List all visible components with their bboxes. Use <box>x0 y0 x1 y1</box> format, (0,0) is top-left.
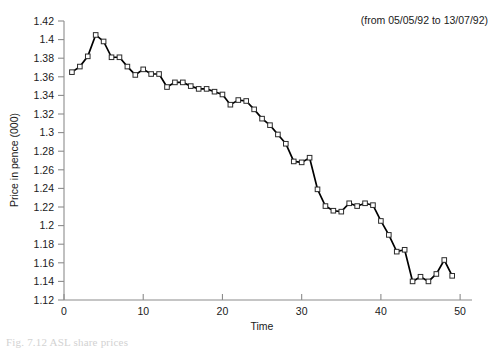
data-point-marker <box>244 99 249 104</box>
data-point-marker <box>220 92 225 97</box>
figure-caption: Fig. 7.12 ASL share prices <box>6 336 128 348</box>
data-point-marker <box>117 55 122 60</box>
y-tick-label: 1.34 <box>34 89 55 101</box>
x-tick-label: 30 <box>296 305 308 317</box>
data-point-marker <box>181 80 186 85</box>
data-point-marker <box>70 70 75 75</box>
x-axis-title: Time <box>251 320 274 332</box>
data-point-marker <box>157 72 162 77</box>
data-point-marker <box>125 64 130 69</box>
data-point-marker <box>212 89 217 94</box>
y-tick-label: 1.26 <box>34 164 55 176</box>
data-point-marker <box>323 204 328 209</box>
data-point-marker <box>355 204 360 209</box>
price-series-line <box>72 35 452 281</box>
y-tick-label: 1.2 <box>39 219 54 231</box>
data-point-marker <box>173 80 178 85</box>
price-time-line-chart: 1.121.141.161.181.21.221.241.261.281.31.… <box>0 0 495 350</box>
y-tick-label: 1.4 <box>39 33 54 45</box>
data-point-marker <box>133 73 138 78</box>
y-tick-label: 1.38 <box>34 52 55 64</box>
data-point-marker <box>442 258 447 263</box>
data-point-marker <box>347 201 352 206</box>
y-axis-ticks: 1.121.141.161.181.21.221.241.261.281.31.… <box>34 15 64 306</box>
data-point-marker <box>394 249 399 254</box>
data-point-marker <box>196 87 201 92</box>
data-point-marker <box>450 274 455 279</box>
x-axis-group: 01020304050 <box>61 294 472 317</box>
data-point-marker <box>260 116 265 121</box>
data-point-marker <box>410 279 415 284</box>
data-point-marker <box>363 201 368 206</box>
data-point-marker <box>276 132 281 137</box>
data-point-marker <box>78 64 83 69</box>
y-tick-label: 1.14 <box>34 275 55 287</box>
y-tick-label: 1.22 <box>34 201 55 213</box>
data-point-marker <box>284 141 289 146</box>
data-point-marker <box>188 84 193 89</box>
data-point-marker <box>252 107 257 112</box>
y-tick-label: 1.28 <box>34 145 55 157</box>
data-point-marker <box>204 87 209 92</box>
data-point-marker <box>331 208 336 213</box>
y-axis-group: 1.121.141.161.181.21.221.241.261.281.31.… <box>34 15 64 306</box>
data-point-marker <box>101 39 106 44</box>
y-tick-label: 1.3 <box>39 126 54 138</box>
y-tick-label: 1.32 <box>34 108 55 120</box>
data-point-marker <box>291 159 296 164</box>
data-point-marker <box>299 160 304 165</box>
y-tick-label: 1.42 <box>34 15 55 27</box>
x-axis-ticks: 01020304050 <box>61 294 466 317</box>
data-point-marker <box>426 279 431 284</box>
data-point-marker <box>371 203 376 208</box>
data-point-marker <box>149 72 154 77</box>
data-point-marker <box>379 219 384 224</box>
y-tick-label: 1.16 <box>34 257 55 269</box>
data-point-marker <box>307 155 312 160</box>
x-tick-label: 0 <box>61 305 67 317</box>
data-point-marker <box>141 67 146 72</box>
y-tick-label: 1.18 <box>34 238 55 250</box>
y-tick-label: 1.36 <box>34 71 55 83</box>
x-tick-label: 20 <box>217 305 229 317</box>
data-point-marker <box>418 274 423 279</box>
data-point-marker <box>434 272 439 277</box>
data-point-marker <box>315 187 320 192</box>
data-point-marker <box>109 55 114 60</box>
y-axis-title: Price in pence (000) <box>8 113 20 207</box>
data-point-marker <box>402 247 407 252</box>
x-tick-label: 40 <box>375 305 387 317</box>
data-point-marker <box>85 54 90 59</box>
y-tick-label: 1.12 <box>34 294 55 306</box>
x-tick-label: 10 <box>137 305 149 317</box>
data-point-marker <box>339 209 344 214</box>
date-range-annotation: (from 05/05/92 to 13/07/92) <box>361 14 488 26</box>
data-point-marker <box>236 98 241 103</box>
price-series-markers <box>70 33 455 284</box>
data-point-marker <box>93 33 98 38</box>
data-point-marker <box>268 123 273 128</box>
x-tick-label: 50 <box>454 305 466 317</box>
data-point-marker <box>228 102 233 107</box>
data-point-marker <box>165 85 170 90</box>
figure-container: 1.121.141.161.181.21.221.241.261.281.31.… <box>0 0 495 350</box>
data-point-marker <box>387 233 392 238</box>
y-tick-label: 1.24 <box>34 182 55 194</box>
